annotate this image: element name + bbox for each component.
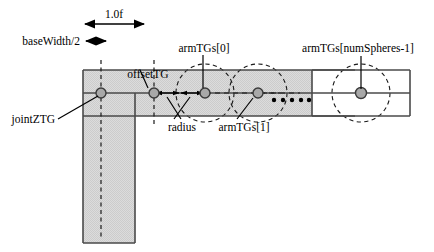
figure-canvas: 1.0f baseWidth/2 armTGs[0] armTGs[numSph… [0,0,434,252]
label-dim-length: 1.0f [105,8,123,20]
label-dim-base-width: baseWidth/2 [22,35,80,47]
sphere-armTGs0 [200,88,210,98]
label-joint: jointZTG [11,113,55,126]
label-arm-last: armTGs[numSpheres-1] [302,42,414,55]
arm-geometry-diagram: 1.0f baseWidth/2 armTGs[0] armTGs[numSph… [0,0,434,252]
sphere-armTGs1 [253,88,263,98]
label-arm-first: armTGs[0] [178,42,229,54]
sphere-offsetTG [149,88,159,98]
sphere-armTGs-last [356,88,367,99]
label-arm-second: armTGs[1] [218,121,269,133]
dimension-arrows [85,24,144,41]
label-radius: radius [168,121,197,133]
label-offset: offsetTG [127,68,168,80]
